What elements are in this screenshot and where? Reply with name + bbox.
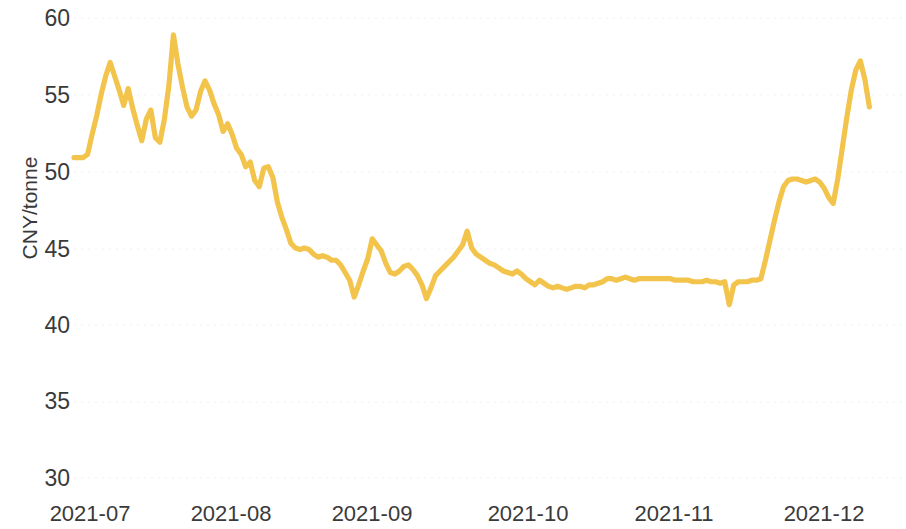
x-tick-label-2021-12: 2021-12: [784, 501, 865, 527]
x-tick-label-2021-10: 2021-10: [488, 501, 569, 527]
chart-container: CNY/tonne 60 55 50 45 40 35 30 2021-07 2…: [0, 0, 906, 529]
data-series-line: [74, 35, 869, 305]
x-tick-label-2021-09: 2021-09: [332, 501, 413, 527]
plot-area: [0, 0, 906, 529]
gridlines: [74, 18, 906, 478]
x-tick-label-2021-11: 2021-11: [634, 501, 713, 527]
x-tick-label-2021-07: 2021-07: [50, 501, 131, 527]
x-tick-label-2021-08: 2021-08: [191, 501, 272, 527]
